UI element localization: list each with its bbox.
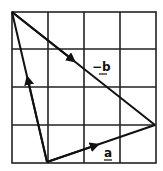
arrow-a-icon [47,146,95,162]
arrow-side-icon [28,80,47,162]
vector-diagram: −b a [0,0,163,171]
grid [12,12,156,163]
label-neg-b: −b [92,60,111,74]
label-a: a [104,146,112,160]
